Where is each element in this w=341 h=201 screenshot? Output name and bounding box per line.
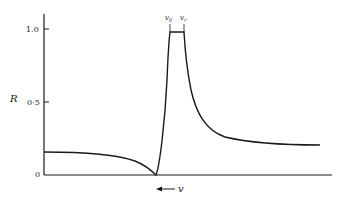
v0-label: v0 [165, 14, 173, 23]
y-tick-label-05: 0·5 [27, 98, 40, 107]
y-tick-label-0: 0 [35, 170, 40, 179]
reflectance-chart: 1.0 0·5 0 R v0 vr v [0, 0, 341, 201]
y-tick-label-1: 1.0 [26, 25, 39, 34]
y-axis-label: R [9, 93, 18, 104]
arrow-left-icon [156, 187, 162, 192]
reflectance-curve [44, 32, 320, 175]
vr-label: vr [180, 14, 187, 23]
frequency-direction-arrow: v [156, 183, 184, 194]
x-axis-label: v [178, 183, 184, 194]
